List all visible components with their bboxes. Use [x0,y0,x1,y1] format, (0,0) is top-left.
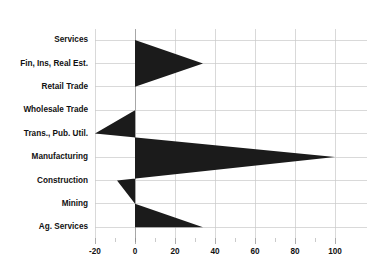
x-axis-label: 40 [210,247,220,256]
y-axis-label: Trans., Pub. Util. [24,129,88,138]
y-axis-label: Fin, Ins, Real Est. [20,59,88,68]
x-axis-label: 100 [328,247,342,256]
y-axis-label: Retail Trade [42,82,89,91]
x-axis-label: 20 [170,247,180,256]
y-axis-label: Services [54,35,88,44]
y-axis-label: Mining [62,199,88,208]
x-axis-label: -20 [89,247,101,256]
y-axis-label: Construction [37,176,88,185]
chart-plot-area: ServicesFin, Ins, Real Est.Retail TradeW… [0,0,373,275]
chart-container: ServicesFin, Ins, Real Est.Retail TradeW… [0,0,373,275]
y-axis-label: Ag. Services [39,222,89,231]
y-axis-label: Manufacturing [32,152,88,161]
y-axis-label: Wholesale Trade [23,105,88,114]
x-axis-label: 80 [290,247,300,256]
x-axis-label: 0 [133,247,138,256]
x-axis-label: 60 [250,247,260,256]
